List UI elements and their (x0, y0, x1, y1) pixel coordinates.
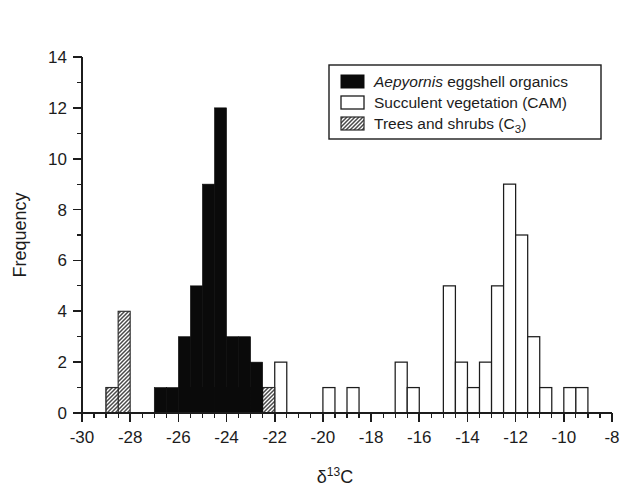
solid-black-swatch (341, 75, 364, 88)
histogram-bar (251, 362, 263, 413)
y-axis-title-text: Frequency (10, 192, 30, 277)
y-tick-label: 12 (48, 99, 67, 118)
histogram-bar (540, 388, 552, 413)
legend-label-eggshell: Aepyornis eggshell organics (373, 73, 568, 90)
x-tick-label: -16 (407, 428, 432, 447)
histogram-bar (239, 337, 251, 413)
chart-canvas: -30-28-26-24-22-20-18-16-14-12-10-8 0246… (0, 0, 631, 504)
x-tick-label: -28 (118, 428, 143, 447)
y-tick-label: 8 (58, 201, 67, 220)
y-axis-ticks (73, 57, 82, 413)
histogram-bar (504, 184, 516, 413)
x-axis-ticks (82, 413, 612, 422)
histogram-bar (347, 388, 359, 413)
delta-glyph: δ (317, 467, 327, 487)
histogram-bar (106, 388, 118, 413)
histogram-bar (576, 388, 588, 413)
histogram-bar (202, 184, 214, 413)
x-tick-label: -20 (311, 428, 336, 447)
y-tick-label: 4 (58, 302, 67, 321)
histogram-bar (154, 388, 166, 413)
y-tick-label: 14 (48, 48, 67, 67)
x-axis-title: δ13C (317, 465, 353, 487)
histogram-bar (227, 337, 239, 413)
histogram-bar (190, 286, 202, 413)
superscript-13: 13 (327, 465, 341, 479)
histogram-bar (516, 235, 528, 413)
y-tick-label: 10 (48, 150, 67, 169)
x-tick-label: -14 (455, 428, 480, 447)
x-tick-label: -24 (214, 428, 239, 447)
histogram-bar (263, 388, 275, 413)
legend: Aepyornis eggshell organics Succulent ve… (329, 65, 601, 139)
legend-trees-suffix: ) (521, 115, 526, 132)
genus-name: Aepyornis (373, 73, 443, 90)
bars-layer (106, 108, 588, 413)
histogram-bar (467, 388, 479, 413)
histogram-bar (178, 337, 190, 413)
histogram-bar (407, 388, 419, 413)
histogram-bar (528, 337, 540, 413)
histogram-bar (395, 362, 407, 413)
x-tick-label: -22 (262, 428, 287, 447)
carbon-glyph: C (340, 467, 353, 487)
x-axis-tick-labels: -30-28-26-24-22-20-18-16-14-12-10-8 (70, 428, 620, 447)
y-axis-title: Frequency (10, 192, 30, 277)
histogram-bar (492, 286, 504, 413)
legend-label-cam: Succulent vegetation (CAM) (374, 94, 567, 111)
histogram-bar (323, 388, 335, 413)
histogram-bar (443, 286, 455, 413)
histogram-bar (564, 388, 576, 413)
legend-eggshell-rest: eggshell organics (443, 73, 568, 90)
y-tick-label: 0 (58, 404, 67, 423)
histogram-figure: -30-28-26-24-22-20-18-16-14-12-10-8 0246… (0, 0, 631, 504)
y-tick-label: 6 (58, 251, 67, 270)
histogram-bar (215, 108, 227, 413)
histogram-bar (275, 362, 287, 413)
svg-text:δ13C: δ13C (317, 465, 353, 487)
series-solid-black (154, 108, 262, 413)
x-tick-label: -26 (166, 428, 191, 447)
histogram-bar (166, 388, 178, 413)
x-tick-label: -30 (70, 428, 95, 447)
legend-trees-prefix: Trees and shrubs (C (374, 115, 515, 132)
y-axis-tick-labels: 02468101214 (48, 48, 67, 423)
histogram-bar (480, 362, 492, 413)
x-tick-label: -8 (604, 428, 619, 447)
histogram-bar (118, 311, 130, 413)
x-tick-label: -12 (503, 428, 528, 447)
x-tick-label: -10 (552, 428, 577, 447)
open-outline-swatch (341, 96, 364, 109)
y-tick-label: 2 (58, 353, 67, 372)
gray-hatched-swatch (341, 117, 364, 130)
histogram-bar (455, 362, 467, 413)
x-tick-label: -18 (359, 428, 384, 447)
